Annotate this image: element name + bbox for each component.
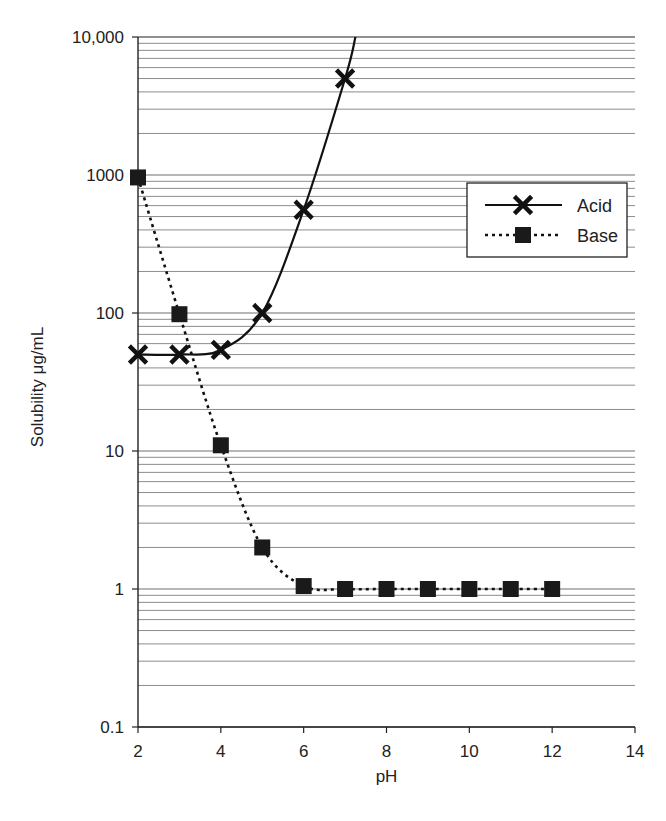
legend: AcidBase [467, 183, 627, 257]
x-tick-label: 2 [133, 742, 142, 761]
data-series [130, 37, 560, 597]
base-marker-square-icon [254, 539, 270, 555]
axis-ticks: 24681012140.1110100100010,000 [72, 28, 644, 761]
gridlines [138, 37, 635, 727]
base-marker-square-icon [337, 581, 353, 597]
y-tick-label: 1000 [86, 166, 124, 185]
legend-label: Acid [577, 196, 612, 216]
acid-line [138, 37, 355, 355]
y-tick-label: 10,000 [72, 28, 124, 47]
base-marker-square-icon [503, 581, 519, 597]
chart-canvas: 24681012140.1110100100010,000 AcidBase p… [0, 0, 666, 821]
y-tick-label: 100 [96, 304, 124, 323]
base-marker-square-icon [420, 581, 436, 597]
x-tick-label: 10 [460, 742, 479, 761]
legend-square-marker-icon [515, 227, 531, 243]
y-tick-label: 0.1 [100, 718, 124, 737]
x-axis-title: pH [376, 767, 398, 786]
x-tick-label: 8 [382, 742, 391, 761]
x-tick-label: 14 [626, 742, 645, 761]
y-tick-label: 10 [105, 442, 124, 461]
base-marker-square-icon [379, 581, 395, 597]
base-marker-square-icon [461, 581, 477, 597]
x-tick-label: 4 [216, 742, 225, 761]
y-tick-label: 1 [115, 580, 124, 599]
axes [138, 37, 635, 727]
base-marker-square-icon [171, 306, 187, 322]
base-marker-square-icon [130, 169, 146, 185]
base-marker-square-icon [213, 437, 229, 453]
y-axis-title: Solubility μg/mL [28, 327, 47, 447]
solubility-chart: 24681012140.1110100100010,000 AcidBase p… [0, 0, 666, 821]
legend-label: Base [577, 226, 618, 246]
acid-marker-x-icon [297, 203, 311, 217]
x-tick-label: 12 [543, 742, 562, 761]
base-marker-square-icon [544, 581, 560, 597]
base-marker-square-icon [296, 578, 312, 594]
x-tick-label: 6 [299, 742, 308, 761]
